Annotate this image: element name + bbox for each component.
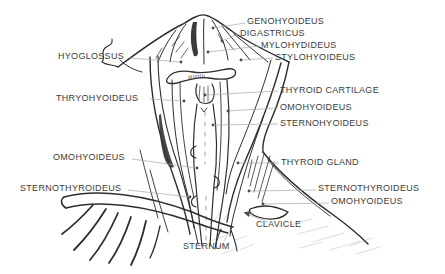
leader-hyoglossus <box>130 58 181 62</box>
label-mylohydideus: MYLOHYDIDEUS <box>261 41 337 51</box>
anatomy-figure: HYOID <box>0 0 445 274</box>
label-thryohyoideus: THRYOHYOIDEUS <box>56 94 138 104</box>
label-genohyoideus: GENOHYOIDEUS <box>247 17 324 27</box>
label-stylohyoideus: STYLOHYOIDEUS <box>275 53 355 63</box>
anatomy-sketch: HYOID <box>0 0 445 274</box>
leader-omohyoideus-upper-right <box>228 108 278 111</box>
leader-thryohyoideus <box>150 99 184 101</box>
label-sternothyroideus-right: STERNOTHYROIDEUS <box>318 184 419 194</box>
leader-stylohyoideus <box>241 58 273 60</box>
label-thyroid-gland: THYROID GLAND <box>281 158 359 168</box>
label-omohyoideus-upper-right: OMOHYOIDEUS <box>280 103 352 113</box>
leader-sternohyoideus <box>213 124 278 125</box>
trachea <box>191 80 229 246</box>
label-omohyoideus-lower-right: OMOHYOIDEUS <box>331 197 403 207</box>
label-omohyoideus-left: OMOHYOIDEUS <box>53 153 125 163</box>
scm-shading-left <box>159 114 174 168</box>
label-digastricus: DIGASTRICUS <box>240 29 305 39</box>
leader-thyroid-cartilage <box>205 91 278 95</box>
shoulder-strokes-left <box>62 205 160 265</box>
leader-sternothyroideus-right <box>249 190 316 191</box>
neck-muscle-bands <box>140 56 289 244</box>
label-sternohyoideus: STERNOHYOIDEUS <box>280 119 369 129</box>
label-thyroid-cartilage: THYROID CARTILAGE <box>280 86 379 96</box>
label-sternothyroideus-left: STERNOTHYROIDEUS <box>20 184 121 194</box>
label-sternum: STERNUM <box>183 242 230 252</box>
clavicle-left-bone <box>62 193 233 265</box>
leader-sternothyroideus-left <box>128 190 190 197</box>
hyoid-bone: HYOID <box>167 69 236 84</box>
thyroid-cartilage-shape <box>196 84 214 112</box>
hyoid-bone-inscription: HYOID <box>187 74 206 80</box>
label-clavicle: CLAVICLE <box>256 220 301 230</box>
label-hyoglossus: HYOGLOSSUS <box>58 52 124 62</box>
